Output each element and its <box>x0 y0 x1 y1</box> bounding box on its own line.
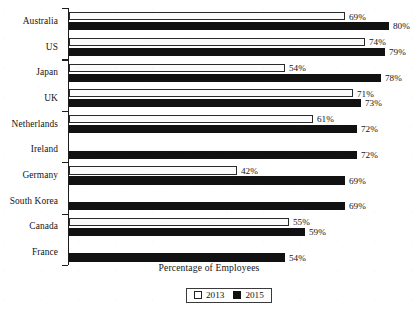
bar-value-2013: 42% <box>241 167 258 176</box>
bar-2015 <box>69 202 345 210</box>
bar-2015 <box>69 48 385 56</box>
bar-2015 <box>69 228 305 236</box>
bar-2015 <box>69 151 357 159</box>
chart-row: Ireland72% <box>0 137 418 163</box>
chart-row: Canada55%59% <box>0 214 418 240</box>
bar-value-2015: 79% <box>389 48 406 57</box>
category-label: South Korea <box>0 196 58 206</box>
bar-2015 <box>69 176 345 184</box>
category-label: Netherlands <box>0 119 58 129</box>
category-label: UK <box>0 93 58 103</box>
category-label: US <box>0 42 58 52</box>
bar-2013 <box>69 115 313 123</box>
legend-swatch-open-square-icon <box>194 291 202 299</box>
chart-row: Germany42%69% <box>0 162 418 188</box>
bar-2013 <box>69 64 285 72</box>
chart-row: South Korea69% <box>0 188 418 214</box>
bar-value-2015: 72% <box>361 151 378 160</box>
bar-value-2013: 55% <box>293 218 310 227</box>
bar-value-2015: 73% <box>365 99 382 108</box>
bar-2013 <box>69 166 237 174</box>
bar-2015 <box>69 253 285 261</box>
category-label: Canada <box>0 221 58 231</box>
legend-swatch-filled-square-icon <box>233 291 241 299</box>
bar-value-2015: 80% <box>393 22 410 31</box>
chart-row: Japan54%78% <box>0 59 418 85</box>
legend-label-2013: 2013 <box>206 291 224 300</box>
y-axis-tick <box>62 8 68 9</box>
legend-item-2013[interactable]: 2013 <box>194 291 224 300</box>
category-label: France <box>0 247 58 257</box>
bar-2015 <box>69 22 389 30</box>
chart-row: UK71%73% <box>0 85 418 111</box>
bar-value-2013: 74% <box>369 38 386 47</box>
bar-2015 <box>69 125 357 133</box>
category-label: Germany <box>0 170 58 180</box>
bar-2013 <box>69 12 345 20</box>
bar-value-2015: 69% <box>349 202 366 211</box>
x-axis-title: Percentage of Employees <box>0 262 418 273</box>
bar-2015 <box>69 99 361 107</box>
legend-label-2015: 2015 <box>245 291 263 300</box>
chart-row: Australia69%80% <box>0 8 418 34</box>
chart-row: US74%79% <box>0 34 418 60</box>
bar-2013 <box>69 38 365 46</box>
bar-value-2015: 59% <box>309 228 326 237</box>
legend-item-2015[interactable]: 2015 <box>233 291 263 300</box>
bar-value-2015: 69% <box>349 177 366 186</box>
bar-2013 <box>69 218 289 226</box>
horizontal-bar-chart: Australia69%80%US74%79%Japan54%78%UK71%7… <box>0 0 418 314</box>
bar-value-2015: 72% <box>361 125 378 134</box>
category-label: Ireland <box>0 144 58 154</box>
bar-value-2013: 69% <box>349 13 366 22</box>
chart-row: Netherlands61%72% <box>0 111 418 137</box>
bar-value-2013: 61% <box>317 115 334 124</box>
bar-2013 <box>69 89 353 97</box>
bar-value-2015: 78% <box>385 74 402 83</box>
bar-2015 <box>69 74 381 82</box>
chart-legend: 2013 2015 <box>186 288 272 303</box>
bar-value-2013: 54% <box>289 64 306 73</box>
category-label: Japan <box>0 67 58 77</box>
category-label: Australia <box>0 16 58 26</box>
